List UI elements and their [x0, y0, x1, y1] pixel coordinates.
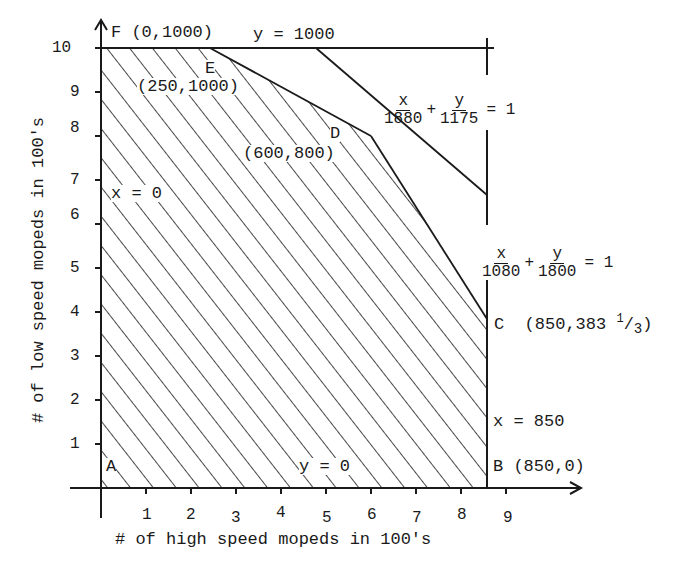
- y-tick-4: 4: [70, 304, 80, 320]
- point-E-label: E: [205, 60, 215, 77]
- y-tick-10: 10: [52, 40, 71, 56]
- point-D-label: D: [330, 125, 340, 142]
- line-y1000-label: y = 1000: [253, 26, 335, 43]
- frac-num: 1: [616, 312, 623, 326]
- eq1-xden: 1880: [384, 111, 422, 128]
- eq1-x: x: [396, 93, 410, 111]
- y-tick-8: 8: [70, 120, 80, 136]
- x-tick-4: 4: [276, 505, 286, 521]
- chart-canvas: [0, 0, 682, 563]
- point-F-label: F (0,1000): [111, 24, 213, 41]
- eq1-y: y: [452, 93, 466, 111]
- x-tick-3: 3: [231, 510, 241, 526]
- y-tick-2: 2: [70, 392, 80, 408]
- point-E-coord: (250,1000): [137, 78, 239, 95]
- x-tick-5: 5: [322, 510, 332, 526]
- y-tick-7: 7: [70, 172, 80, 188]
- y-tick-5: 5: [70, 260, 80, 276]
- point-D-coord: (600,800): [243, 145, 335, 162]
- line-x850-label: x = 850: [493, 413, 564, 430]
- point-C-close: ): [642, 315, 652, 334]
- point-B-label: B (850,0): [493, 458, 585, 475]
- x-tick-6: 6: [367, 507, 377, 523]
- eq1-rhs: = 1: [486, 101, 515, 119]
- eq1-plus: +: [426, 101, 436, 119]
- y-tick-3: 3: [70, 348, 80, 364]
- point-A-label: A: [106, 458, 116, 475]
- eq2-xden: 1080: [482, 264, 520, 281]
- eq2-x: x: [494, 246, 508, 264]
- x-tick-1: 1: [142, 507, 152, 523]
- x-tick-7: 7: [412, 510, 422, 526]
- eq2-plus: +: [524, 254, 534, 272]
- x-tick-9: 9: [503, 510, 513, 526]
- point-C-letter: C: [494, 315, 504, 334]
- y-tick-1: 1: [70, 436, 80, 452]
- eq1-yden: 1175: [440, 111, 478, 128]
- equation-1880-1175: x1880 + y1175 = 1: [380, 93, 515, 128]
- line-y0-label: y = 0: [299, 458, 350, 475]
- line-x0-label: x = 0: [111, 185, 162, 202]
- x-tick-8: 8: [457, 507, 467, 523]
- eq2-y: y: [550, 246, 564, 264]
- x-axis-label: # of high speed mopeds in 100's: [115, 530, 431, 549]
- x-tick-2: 2: [186, 507, 196, 523]
- y-tick-9: 9: [70, 84, 80, 100]
- point-C-label: C (850,383 1/3): [494, 313, 653, 336]
- eq2-yden: 1800: [538, 264, 576, 281]
- eq2-rhs: = 1: [584, 254, 613, 272]
- equation-1080-1800: x1080 + y1800 = 1: [478, 246, 613, 281]
- point-C-coord: (850,383: [525, 315, 607, 334]
- y-axis-label: # of low speed mopeds in 100's: [29, 117, 48, 423]
- y-tick-6: 6: [70, 207, 80, 223]
